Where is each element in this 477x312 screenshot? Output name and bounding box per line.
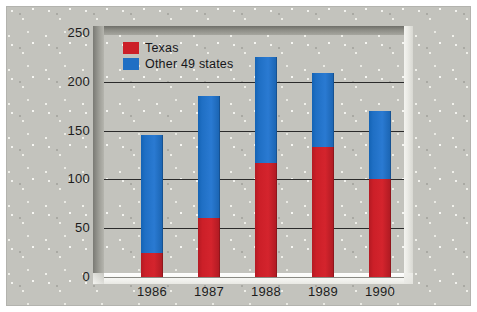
bar-1987[interactable] xyxy=(198,96,220,277)
y-axis-tick-labels: 050100150200250 xyxy=(46,0,90,312)
legend-swatch-texas xyxy=(123,42,139,54)
bar-1986[interactable] xyxy=(141,135,163,277)
bar-segment-other-1990[interactable] xyxy=(369,111,391,179)
frame-bevel-right xyxy=(404,26,413,284)
bar-segment-texas-1987[interactable] xyxy=(198,218,220,277)
bar-segment-texas-1988[interactable] xyxy=(255,163,277,277)
y-tick-label-150: 150 xyxy=(50,123,90,138)
y-tick-label-50: 50 xyxy=(50,220,90,235)
legend-label: Other 49 states xyxy=(145,57,233,71)
legend-item[interactable]: Texas xyxy=(123,41,233,55)
legend-swatch-other xyxy=(123,58,139,70)
bar-segment-other-1987[interactable] xyxy=(198,96,220,218)
y-tick-label-200: 200 xyxy=(50,74,90,89)
x-tick-label-1989: 1989 xyxy=(294,284,352,299)
frame-bevel-left xyxy=(93,26,104,284)
bar-segment-other-1989[interactable] xyxy=(312,73,334,147)
bar-1988[interactable] xyxy=(255,57,277,277)
bar-segment-other-1988[interactable] xyxy=(255,57,277,162)
gridline-200 xyxy=(104,82,404,83)
frame-bevel-top xyxy=(93,26,413,35)
chart-legend: TexasOther 49 states xyxy=(123,41,233,71)
chart-screenshot: 050100150200250 19861987198819891990 Tex… xyxy=(0,0,477,312)
y-tick-label-0: 0 xyxy=(50,269,90,284)
bar-segment-other-1986[interactable] xyxy=(141,135,163,252)
frame-corner-bottom-left xyxy=(93,273,104,284)
bar-segment-texas-1989[interactable] xyxy=(312,147,334,277)
y-tick-label-250: 250 xyxy=(50,25,90,40)
y-tick-label-100: 100 xyxy=(50,171,90,186)
axis-baseline xyxy=(104,277,404,278)
bar-1989[interactable] xyxy=(312,73,334,277)
bar-segment-texas-1990[interactable] xyxy=(369,179,391,277)
plot-area xyxy=(104,35,404,277)
x-tick-label-1986: 1986 xyxy=(123,284,181,299)
frame-corner-bottom-right xyxy=(404,273,413,284)
x-tick-label-1987: 1987 xyxy=(180,284,238,299)
legend-item[interactable]: Other 49 states xyxy=(123,57,233,71)
bar-1990[interactable] xyxy=(369,111,391,277)
gridline-150 xyxy=(104,131,404,132)
legend-label: Texas xyxy=(145,41,179,55)
x-tick-label-1990: 1990 xyxy=(351,284,409,299)
bar-segment-texas-1986[interactable] xyxy=(141,253,163,277)
x-tick-label-1988: 1988 xyxy=(237,284,295,299)
